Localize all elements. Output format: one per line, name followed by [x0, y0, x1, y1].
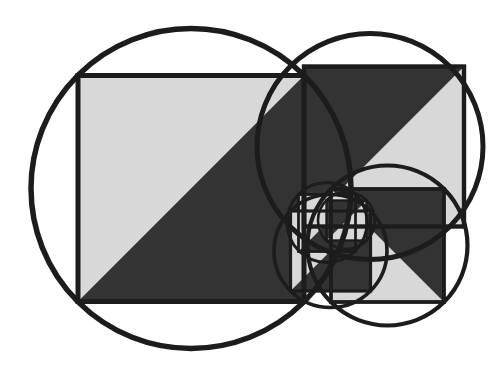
figure-stage — [0, 0, 492, 378]
recursive-spiral-figure — [0, 0, 492, 378]
square-fills-layer — [78, 67, 464, 303]
